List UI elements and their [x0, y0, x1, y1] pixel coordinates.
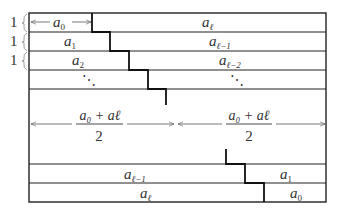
bottom-row2-right-label: a0 [290, 185, 303, 203]
row3-right-label: aℓ−2 [219, 52, 241, 70]
row4-right-ellipsis: ⋱ [230, 73, 244, 88]
staircase-diagram: 1 1 1 a0 aℓ a1 aℓ−1 a2 aℓ−2 ⋱ ⋱ a₀ + aℓ … [0, 0, 337, 210]
row3-left-label: a2 [72, 52, 84, 70]
bottom-row1-right-label: a1 [280, 166, 292, 184]
row2-right-label: aℓ−1 [209, 33, 231, 51]
row-braces [22, 14, 27, 70]
mid-left-denominator: 2 [95, 128, 103, 144]
row-count-3: 1 [10, 52, 18, 68]
bottom-row1-left-label: aℓ−1 [124, 166, 146, 184]
top-staircase [92, 13, 166, 105]
bottom-staircase [226, 149, 264, 202]
mid-left-numerator: a₀ + aℓ [79, 108, 120, 123]
row-count-2: 1 [10, 33, 18, 49]
mid-right-numerator: a₀ + aℓ [228, 108, 269, 123]
row-count-1: 1 [10, 14, 18, 30]
mid-right-denominator: 2 [245, 128, 253, 144]
row4-left-ellipsis: ⋱ [82, 73, 96, 88]
row1-right-label: aℓ [202, 14, 214, 32]
row2-left-label: a1 [64, 33, 76, 51]
row1-left-label: a0 [53, 14, 66, 32]
bottom-row2-left-label: aℓ [140, 185, 152, 203]
